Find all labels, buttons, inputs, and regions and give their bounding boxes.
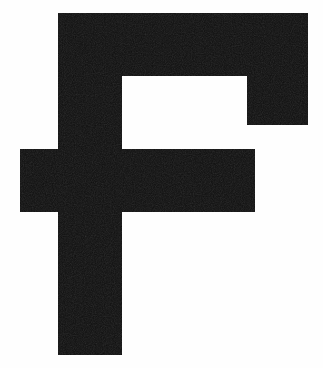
- letter-f-glyph-svg: F: [0, 0, 323, 368]
- glyph-canvas: F Large bold sans-serif capital letter F…: [0, 0, 323, 368]
